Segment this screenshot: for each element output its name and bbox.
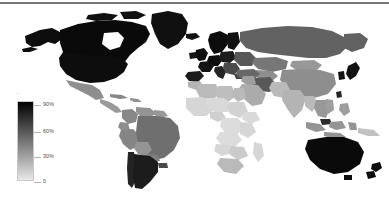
- figure-top-rule: [0, 2, 389, 4]
- legend-tick-mark: [34, 157, 41, 158]
- legend-tick-mark: [34, 132, 41, 133]
- region-tasmania: [344, 175, 352, 180]
- colorbar-legend: ' 90% 60% 30% 0: [17, 101, 59, 183]
- legend-label-0: 0: [43, 179, 46, 184]
- legend-caret-mark: ': [17, 92, 18, 98]
- legend-tick-mark: [34, 105, 41, 106]
- region-uruguay: [158, 163, 168, 168]
- figure-root: ' 90% 60% 30% 0: [0, 0, 389, 198]
- legend-label-60: 60%: [43, 129, 54, 134]
- region-taiwan: [336, 91, 342, 98]
- region-korea: [338, 71, 345, 80]
- legend-label-30: 30%: [43, 154, 54, 159]
- legend-tick-mark: [34, 182, 41, 183]
- region-ireland: [189, 52, 197, 59]
- colorbar-gradient: [17, 101, 34, 181]
- legend-label-90: 90%: [43, 102, 54, 107]
